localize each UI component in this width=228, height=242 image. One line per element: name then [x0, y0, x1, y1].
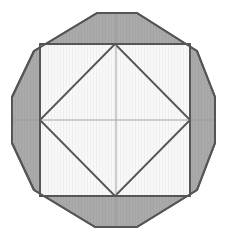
- vertex-left-marker: [39, 119, 41, 121]
- vertex-top-marker: [114, 43, 116, 45]
- figure-canvas: [0, 0, 228, 242]
- vertex-right-marker: [189, 119, 191, 121]
- geometry-figure: [0, 0, 228, 242]
- vertex-bottom-marker: [114, 195, 116, 197]
